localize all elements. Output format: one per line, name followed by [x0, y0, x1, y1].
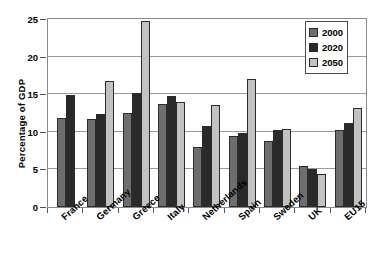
bar — [335, 130, 344, 207]
bar — [317, 174, 326, 207]
bar — [176, 102, 185, 207]
legend-item[interactable]: 2020 — [309, 40, 343, 55]
y-tick-mark — [40, 57, 46, 58]
bar — [264, 141, 273, 207]
x-tick-label: UK — [306, 205, 324, 222]
bar — [238, 133, 247, 207]
bar-group — [119, 19, 154, 207]
bar — [57, 118, 66, 207]
legend-swatch-icon — [309, 43, 318, 52]
legend-label: 2020 — [322, 43, 343, 53]
bar-chart: Percentage of GDP 0510152025 FranceGerma… — [0, 0, 391, 279]
legend: 200020202050 — [305, 21, 348, 74]
legend-swatch-icon — [309, 28, 318, 37]
bar-group — [260, 19, 295, 207]
bar — [202, 126, 211, 207]
bar-group — [154, 19, 189, 207]
bar — [193, 147, 202, 207]
bar — [167, 96, 176, 207]
y-tick-label: 20 — [27, 51, 38, 62]
bar — [141, 21, 150, 207]
legend-item[interactable]: 2050 — [309, 55, 343, 70]
legend-label: 2000 — [322, 28, 343, 38]
y-tick-mark — [40, 94, 46, 95]
bar — [353, 108, 362, 207]
bar — [344, 123, 353, 207]
bar-group — [48, 19, 83, 207]
bar — [158, 104, 167, 207]
x-axis-labels: FranceGermanyGreeceItalyNetherlandsSpain… — [0, 208, 391, 279]
bar — [66, 95, 75, 207]
bar — [105, 81, 114, 207]
legend-swatch-icon — [309, 58, 318, 67]
bar-group — [189, 19, 224, 207]
bar — [247, 79, 256, 207]
y-tick-mark — [40, 19, 46, 20]
legend-item[interactable]: 2000 — [309, 25, 343, 40]
bar-group — [83, 19, 118, 207]
bar — [132, 93, 141, 207]
y-tick-label: 10 — [27, 126, 38, 137]
legend-label: 2050 — [322, 58, 343, 68]
y-tick-label: 15 — [27, 89, 38, 100]
bar — [308, 169, 317, 207]
bar — [211, 105, 220, 207]
bar — [96, 114, 105, 207]
y-tick-mark — [40, 169, 46, 170]
bar — [87, 119, 96, 207]
y-tick-label: 5 — [33, 164, 38, 175]
y-tick-mark — [40, 132, 46, 133]
y-tick-label: 25 — [27, 14, 38, 25]
bar — [273, 130, 282, 207]
